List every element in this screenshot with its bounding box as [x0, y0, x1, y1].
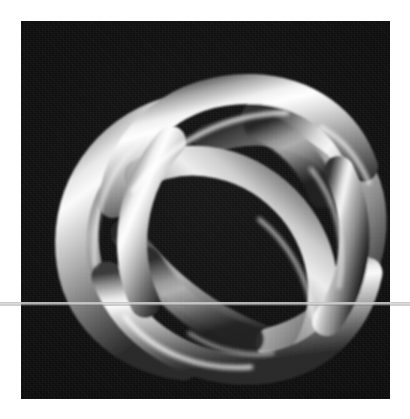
- rendered-image-frame: [21, 21, 390, 399]
- screenshot-root: [0, 0, 410, 419]
- torus-knot-figure: [21, 21, 390, 399]
